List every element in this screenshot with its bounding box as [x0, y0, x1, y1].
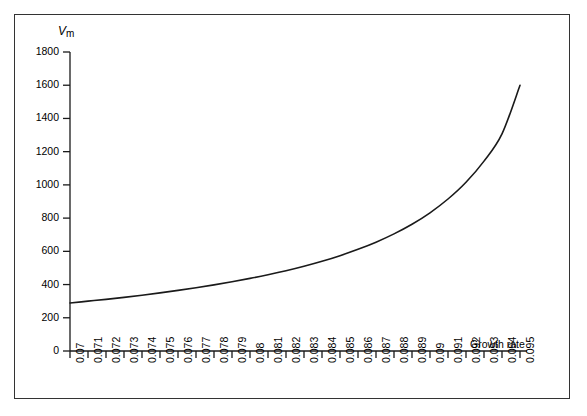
y-axis-tick-label: 1400: [25, 111, 59, 123]
data-series-curve: [70, 85, 520, 303]
x-axis-tick-label: 0.083: [308, 337, 320, 363]
x-axis-tick-label: 0.079: [236, 337, 248, 363]
y-axis-tick-label: 600: [25, 244, 59, 256]
axis-lines: [70, 52, 527, 351]
y-axis-label-subscript: m: [66, 28, 74, 39]
y-axis-tick-label: 0: [25, 344, 59, 356]
chart-figure: Vm 020040060080010001200140016001800 0.0…: [0, 0, 587, 416]
y-axis-tick-label: 1600: [25, 78, 59, 90]
x-axis-tick-label: 0.084: [326, 337, 338, 363]
x-axis-tick-label: 0.072: [110, 337, 122, 363]
y-axis-label-symbol: V: [58, 24, 66, 38]
y-axis-tick-label: 400: [25, 278, 59, 290]
x-axis-tick-label: 0.08: [254, 343, 266, 363]
x-axis-tick-label: 0.082: [290, 337, 302, 363]
x-axis-tick-label: 0.091: [452, 337, 464, 363]
y-axis-tick-label: 1200: [25, 145, 59, 157]
x-axis-tick-label: 0.086: [362, 337, 374, 363]
x-axis-tick-label: 0.074: [146, 337, 158, 363]
y-axis-tick-label: 800: [25, 211, 59, 223]
x-axis-tick-label: 0.081: [272, 337, 284, 363]
x-axis-tick-label: 0.077: [200, 337, 212, 363]
x-axis-tick-label: 0.076: [182, 337, 194, 363]
x-axis-tick-label: 0.085: [344, 337, 356, 363]
x-axis-tick-label: 0.07: [74, 343, 86, 363]
y-axis-label: Vm: [58, 24, 74, 38]
y-axis-tick-label: 1800: [25, 45, 59, 57]
x-axis-tick-label: 0.071: [92, 337, 104, 363]
x-axis-title: Growth rate: [470, 338, 525, 350]
x-axis-tick-label: 0.089: [416, 337, 428, 363]
y-axis-tick-label: 1000: [25, 178, 59, 190]
x-axis-tick-label: 0.095: [524, 337, 536, 363]
x-axis-tick-label: 0.078: [218, 337, 230, 363]
x-axis-tick-label: 0.088: [398, 337, 410, 363]
x-axis-tick-label: 0.073: [128, 337, 140, 363]
y-axis-tick-label: 200: [25, 311, 59, 323]
y-axis-ticks: [63, 52, 70, 351]
x-axis-tick-label: 0.087: [380, 337, 392, 363]
x-axis-tick-label: 0.075: [164, 337, 176, 363]
x-axis-tick-label: 0.09: [434, 343, 446, 363]
